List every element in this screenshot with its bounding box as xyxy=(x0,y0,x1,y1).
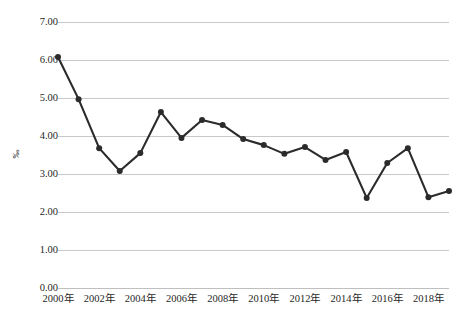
x-tick-label: 2014年 xyxy=(331,292,362,306)
x-tick-label: 2006年 xyxy=(166,292,197,306)
series-line xyxy=(58,22,449,288)
data-point-marker xyxy=(405,145,411,151)
x-axis-tick-labels: 2000年2002年2004年2006年2008年2010年2012年2014年… xyxy=(0,292,459,316)
x-tick-label: 2012年 xyxy=(289,292,320,306)
data-point-marker xyxy=(261,142,267,148)
data-point-marker xyxy=(446,188,452,194)
data-point-marker xyxy=(220,122,226,128)
x-tick-label: 2004年 xyxy=(125,292,156,306)
x-tick-label: 2010年 xyxy=(248,292,279,306)
y-tick-label: 1.00 xyxy=(12,244,58,255)
data-point-marker xyxy=(364,195,370,201)
y-tick-label: 7.00 xyxy=(12,16,58,27)
data-point-marker xyxy=(96,145,102,151)
y-tick-label: 3.00 xyxy=(12,168,58,179)
data-point-marker xyxy=(178,135,184,141)
y-tick-label: 2.00 xyxy=(12,206,58,217)
data-point-marker xyxy=(158,109,164,115)
data-point-marker xyxy=(281,151,287,157)
line-chart: ‰ 7.006.005.004.003.002.001.000.00 2000年… xyxy=(0,0,459,321)
data-point-marker xyxy=(55,54,61,60)
data-point-marker xyxy=(117,168,123,174)
data-point-marker xyxy=(302,144,308,150)
y-tick-label: 4.00 xyxy=(12,130,58,141)
x-tick-label: 2002年 xyxy=(84,292,115,306)
data-point-marker xyxy=(425,194,431,200)
data-point-marker xyxy=(76,96,82,102)
plot-area xyxy=(58,22,449,288)
series-polyline xyxy=(58,57,449,198)
x-tick-label: 2008年 xyxy=(207,292,238,306)
data-point-marker xyxy=(323,157,329,163)
data-point-marker xyxy=(384,160,390,166)
x-tick-label: 2018年 xyxy=(413,292,444,306)
x-tick-label: 2016年 xyxy=(372,292,403,306)
x-tick-label: 2000年 xyxy=(43,292,74,306)
y-axis-tick-labels: 7.006.005.004.003.002.001.000.00 xyxy=(0,0,58,321)
data-point-marker xyxy=(199,117,205,123)
gridline xyxy=(58,288,449,289)
y-tick-label: 5.00 xyxy=(12,92,58,103)
y-tick-label: 6.00 xyxy=(12,54,58,65)
data-point-marker xyxy=(343,149,349,155)
data-point-marker xyxy=(240,136,246,142)
data-point-marker xyxy=(137,150,143,156)
